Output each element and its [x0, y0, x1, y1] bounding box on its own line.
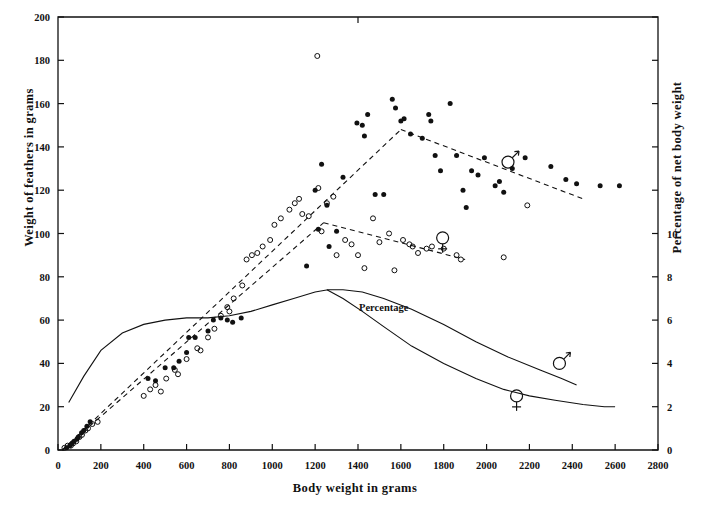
- data-point-filled: [497, 179, 502, 184]
- data-point-filled: [163, 365, 168, 370]
- data-point-filled: [548, 164, 553, 169]
- data-point-open: [334, 253, 339, 258]
- svg-text:400: 400: [136, 460, 152, 471]
- data-point-filled: [454, 153, 459, 158]
- data-point-filled: [420, 136, 425, 141]
- data-point-open: [371, 216, 376, 221]
- data-point-filled: [362, 134, 367, 139]
- data-point-filled: [193, 335, 198, 340]
- svg-text:2800: 2800: [648, 460, 669, 471]
- plot-area: 0204060801001201401601802000246810020040…: [0, 0, 705, 508]
- data-point-filled: [354, 121, 359, 126]
- svg-text:200: 200: [93, 460, 109, 471]
- data-point-filled: [563, 177, 568, 182]
- males-percentage-curve: [69, 290, 577, 403]
- data-point-filled: [501, 190, 506, 195]
- data-point-filled: [523, 155, 528, 160]
- svg-text:0: 0: [667, 445, 672, 456]
- data-point-open: [153, 383, 158, 388]
- data-point-filled: [365, 112, 370, 117]
- svg-text:200: 200: [34, 12, 50, 23]
- data-point-filled: [230, 320, 235, 325]
- data-point-filled: [327, 244, 332, 249]
- data-point-open: [401, 237, 406, 242]
- data-point-open: [424, 246, 429, 251]
- chart-figure: Weight of feathers in grams Percentage o…: [0, 0, 705, 508]
- data-point-open: [95, 419, 100, 424]
- data-points-layer: [62, 53, 622, 450]
- data-point-open: [458, 257, 463, 262]
- data-point-open: [429, 244, 434, 249]
- data-point-open: [416, 250, 421, 255]
- data-point-open: [164, 376, 169, 381]
- data-point-open: [349, 242, 354, 247]
- data-point-open: [343, 237, 348, 242]
- svg-text:2000: 2000: [476, 460, 497, 471]
- data-point-filled: [177, 359, 182, 364]
- data-point-open: [176, 372, 181, 377]
- data-point-filled: [373, 192, 378, 197]
- data-point-open: [306, 214, 311, 219]
- svg-text:2200: 2200: [519, 460, 540, 471]
- males-regression: [62, 130, 401, 450]
- data-point-filled: [448, 101, 453, 106]
- curve-label: Percentage: [359, 302, 409, 313]
- svg-text:4: 4: [667, 358, 673, 369]
- data-point-open: [501, 255, 506, 260]
- data-point-open: [158, 389, 163, 394]
- data-point-open: [387, 231, 392, 236]
- data-point-filled: [461, 188, 466, 193]
- data-point-open: [316, 186, 321, 191]
- data-point-open: [331, 194, 336, 199]
- female-symbol: [437, 232, 449, 253]
- svg-text:80: 80: [40, 272, 51, 283]
- data-point-filled: [304, 263, 309, 268]
- data-point-open: [292, 201, 297, 206]
- data-point-filled: [617, 183, 622, 188]
- svg-text:800: 800: [222, 460, 238, 471]
- data-point-filled: [433, 153, 438, 158]
- data-point-open: [278, 216, 283, 221]
- data-point-open: [297, 196, 302, 201]
- percentage-curves-layer: [69, 290, 615, 407]
- male-symbol: [502, 151, 519, 168]
- data-point-filled: [476, 173, 481, 178]
- data-point-filled: [393, 105, 398, 110]
- data-point-filled: [186, 335, 191, 340]
- svg-text:6: 6: [667, 315, 672, 326]
- data-point-open: [268, 237, 273, 242]
- data-point-open: [244, 257, 249, 262]
- data-point-open: [255, 250, 260, 255]
- data-point-open: [227, 309, 232, 314]
- data-point-filled: [469, 168, 474, 173]
- data-point-open: [249, 253, 254, 258]
- svg-text:2400: 2400: [562, 460, 583, 471]
- svg-text:140: 140: [34, 142, 50, 153]
- data-point-filled: [341, 175, 346, 180]
- data-point-open: [300, 212, 305, 217]
- data-point-filled: [184, 350, 189, 355]
- data-point-filled: [438, 168, 443, 173]
- svg-text:0: 0: [45, 445, 50, 456]
- data-point-open: [392, 268, 397, 273]
- svg-text:1400: 1400: [348, 460, 369, 471]
- svg-text:1000: 1000: [262, 460, 283, 471]
- data-point-filled: [146, 376, 151, 381]
- data-point-filled: [239, 315, 244, 320]
- data-point-open: [212, 326, 217, 331]
- data-point-open: [356, 253, 361, 258]
- svg-text:600: 600: [179, 460, 195, 471]
- data-point-filled: [493, 183, 498, 188]
- male-symbol: [553, 352, 570, 369]
- svg-text:120: 120: [34, 185, 50, 196]
- data-point-filled: [334, 229, 339, 234]
- data-point-filled: [482, 155, 487, 160]
- data-point-open: [148, 387, 153, 392]
- data-point-filled: [319, 162, 324, 167]
- females-regression: [324, 223, 465, 260]
- data-point-filled: [360, 123, 365, 128]
- svg-text:2: 2: [667, 402, 672, 413]
- data-point-filled: [390, 97, 395, 102]
- svg-text:1600: 1600: [390, 460, 411, 471]
- data-point-filled: [381, 192, 386, 197]
